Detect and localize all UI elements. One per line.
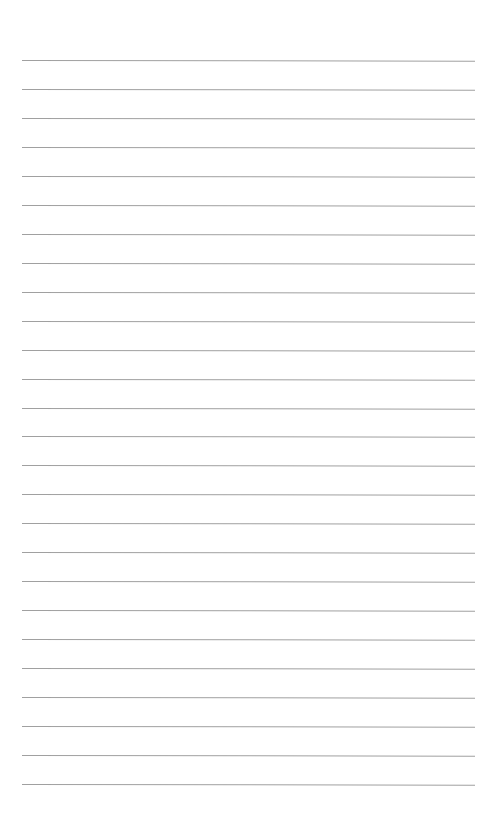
ruled-line (22, 465, 475, 467)
ruled-line (22, 755, 475, 757)
ruled-line (22, 610, 475, 612)
ruled-line (22, 350, 475, 352)
ruled-line (22, 408, 475, 410)
ruled-line (22, 234, 475, 236)
ruled-line (22, 581, 475, 583)
ruled-line (22, 726, 475, 728)
ruled-line (22, 292, 475, 294)
ruled-line (22, 523, 475, 525)
ruled-line (22, 205, 475, 207)
ruled-line (22, 494, 475, 496)
ruled-line (22, 118, 475, 120)
ruled-line (22, 784, 475, 786)
ruled-line (22, 552, 475, 554)
ruled-line (22, 89, 475, 91)
ruled-line (22, 697, 475, 699)
ruled-line (22, 147, 475, 149)
lined-paper-sheet (0, 0, 495, 823)
ruled-line (22, 60, 475, 62)
ruled-line (22, 379, 475, 381)
ruled-line (22, 436, 475, 438)
ruled-line (22, 321, 475, 323)
ruled-line (22, 263, 475, 265)
ruled-line (22, 639, 475, 641)
ruled-line (22, 176, 475, 178)
ruled-line (22, 668, 475, 670)
